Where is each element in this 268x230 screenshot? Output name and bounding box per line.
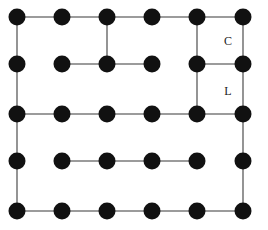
graph-node	[235, 9, 252, 26]
graph-node	[54, 9, 71, 26]
graph-node	[144, 106, 161, 123]
graph-node	[189, 9, 206, 26]
label-c: C	[224, 34, 232, 48]
graph-node	[144, 153, 161, 170]
graph-node	[235, 56, 252, 73]
label-l: L	[224, 84, 231, 98]
graph-node	[189, 203, 206, 220]
graph-node	[99, 153, 116, 170]
graph-node	[54, 56, 71, 73]
graph-node	[99, 9, 116, 26]
graph-node	[54, 203, 71, 220]
graph-node	[235, 153, 252, 170]
graph-node	[9, 56, 26, 73]
label-group: CL	[224, 34, 232, 98]
graph-diagram: CL	[0, 0, 268, 230]
graph-node	[9, 203, 26, 220]
graph-node	[99, 56, 116, 73]
graph-node	[9, 9, 26, 26]
graph-node	[189, 56, 206, 73]
graph-node	[99, 106, 116, 123]
graph-node	[189, 153, 206, 170]
graph-node	[99, 203, 116, 220]
graph-node	[235, 203, 252, 220]
graph-node	[54, 153, 71, 170]
graph-node	[54, 106, 71, 123]
edge-group	[17, 17, 243, 211]
graph-node	[144, 203, 161, 220]
graph-node	[235, 106, 252, 123]
graph-node	[189, 106, 206, 123]
graph-node	[9, 106, 26, 123]
graph-canvas: CL	[0, 0, 268, 230]
graph-node	[144, 56, 161, 73]
graph-node	[144, 9, 161, 26]
graph-node	[9, 153, 26, 170]
